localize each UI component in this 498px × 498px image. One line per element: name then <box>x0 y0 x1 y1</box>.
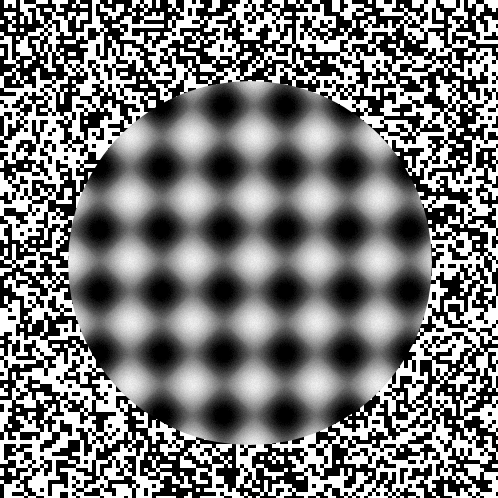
circular-aperture <box>68 81 432 445</box>
plaid-grating <box>68 81 432 445</box>
stimulus-image <box>0 0 498 498</box>
